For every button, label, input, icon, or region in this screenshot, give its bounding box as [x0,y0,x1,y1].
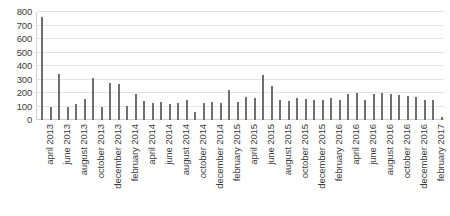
x-axis-tick-label: august 2016 [385,124,395,175]
y-axis-tick-label: 200 [17,88,32,98]
y-axis-tick-label: 600 [17,34,32,44]
x-axis-tick-label: august 2015 [283,124,293,175]
x-axis-tick-label: april 2016 [351,124,361,165]
x-axis-tick-label: february 2014 [130,124,140,181]
bar [143,101,145,120]
bar [364,100,366,120]
y-axis-tick-label: 0 [27,115,32,125]
bar [152,103,154,120]
x-axis-tick-label: december 2015 [317,124,327,189]
bar [254,98,256,120]
x-axis-tick-label: april 2015 [249,124,259,165]
bar [228,90,230,120]
bar [313,100,315,120]
bar [415,97,417,120]
bar [398,95,400,120]
bar [220,103,222,120]
x-axis-tick-label: february 2016 [334,124,344,181]
y-axis-tick-label: 300 [17,75,32,85]
bar-chart: 0100200300400500600700800 april 2013june… [0,0,450,216]
x-axis-tick-label: june 2015 [266,124,276,165]
x-axis-tick-label: october 2015 [300,124,310,178]
bar [390,94,392,120]
x-axis-tick-label: december 2014 [215,124,225,189]
x-axis-tick-label: december 2013 [113,124,123,189]
bar [92,78,94,120]
bar [67,107,69,120]
bar [356,93,358,120]
x-axis-tick-label: april 2013 [45,124,55,165]
x-axis-tick-label: august 2013 [79,124,89,175]
bar [441,117,443,120]
y-axis-tick-label: 400 [17,61,32,71]
x-axis-tick-label: february 2017 [436,124,446,181]
bar [203,103,205,120]
bar [58,74,60,120]
x-axis-tick-label: february 2015 [232,124,242,181]
bar [245,97,247,120]
bar [84,99,86,120]
bar [330,98,332,120]
bar [101,107,103,121]
bar [75,104,77,120]
bar-series [37,12,444,120]
bar [347,94,349,120]
x-axis-tick-label: june 2016 [368,124,378,165]
bar [432,100,434,120]
y-axis: 0100200300400500600700800 [0,6,34,126]
bar [186,100,188,120]
x-axis-tick-label: october 2016 [402,124,412,178]
bar [322,100,324,120]
x-axis: april 2013june 2013august 2013october 20… [36,122,444,214]
bar [373,94,375,120]
x-axis-tick-label: april 2014 [147,124,157,165]
y-axis-tick-label: 100 [17,102,32,112]
x-axis-tick-label: august 2014 [181,124,191,175]
bar [262,75,264,120]
bar [237,102,239,120]
bar [194,112,196,120]
bar [279,100,281,120]
bar [305,99,307,120]
y-axis-tick-label: 800 [17,7,32,17]
bar [41,17,43,120]
bar [288,101,290,120]
bar [296,98,298,120]
x-axis-tick-label: october 2014 [198,124,208,178]
bar [381,93,383,120]
y-axis-tick-label: 500 [17,48,32,58]
x-axis-tick-label: october 2013 [96,124,106,178]
bar [169,104,171,120]
bar [177,103,179,120]
bar [109,83,111,120]
bar [424,100,426,120]
bar [339,100,341,120]
bar [407,96,409,120]
bar [211,102,213,120]
x-axis-tick-label: december 2016 [419,124,429,189]
bar [118,84,120,120]
bar [50,107,52,121]
bar [135,94,137,120]
bar [160,102,162,120]
bar [271,86,273,120]
plot-area [36,12,444,120]
y-axis-tick-label: 700 [17,21,32,31]
x-axis-tick-label: june 2013 [62,124,72,165]
x-axis-tick-label: june 2014 [164,124,174,165]
bar [126,106,128,120]
